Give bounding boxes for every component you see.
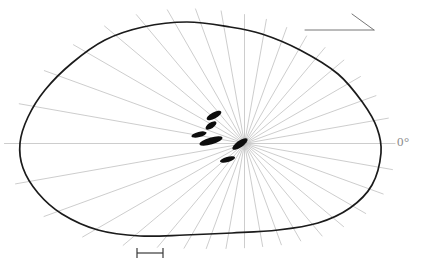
scale-bar — [137, 248, 163, 258]
organelle-blob — [205, 109, 222, 122]
direction-arrow — [305, 14, 374, 30]
figure: 0° — [0, 0, 422, 266]
organelle-blob — [191, 130, 207, 139]
radial-line — [44, 144, 245, 217]
orientation-diagram — [0, 0, 422, 266]
radial-fan — [4, 9, 395, 249]
radial-line — [44, 71, 245, 144]
zero-degree-label: 0° — [397, 134, 410, 150]
